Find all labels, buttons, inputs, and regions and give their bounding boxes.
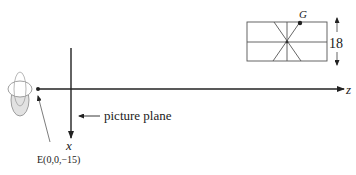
object-figure: [247, 21, 327, 61]
x-axis-label: x: [65, 138, 72, 153]
point-g-dot: [298, 21, 302, 25]
height-label: 18: [329, 36, 343, 51]
eye-icon: [8, 72, 32, 116]
eye-point-leader: [38, 96, 50, 142]
eye-point-dot: [36, 87, 40, 91]
perspective-diagram: z x picture plane E(0,0,−15) G 18: [0, 0, 356, 175]
diagram-svg: z x picture plane E(0,0,−15) G 18: [0, 0, 356, 175]
z-axis-label: z: [345, 82, 351, 97]
eye-point-label: E(0,0,−15): [37, 154, 80, 166]
picture-plane-label: picture plane: [104, 108, 172, 123]
point-g-label: G: [299, 8, 307, 20]
